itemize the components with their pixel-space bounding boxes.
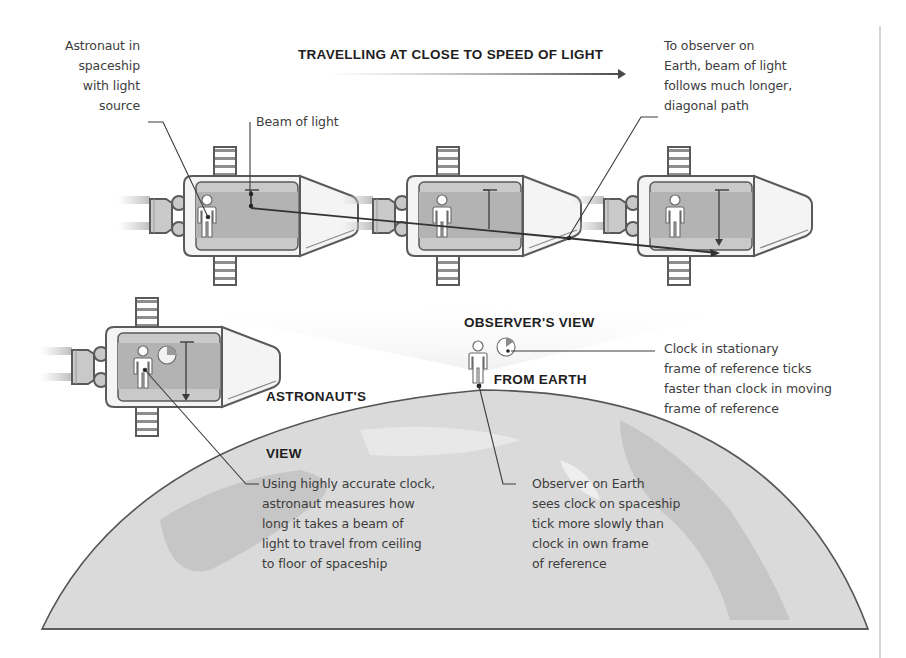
label-clock-stationary: Clock in stationary frame of reference t… <box>664 339 832 419</box>
label-observer-path: To observer on Earth, beam of light foll… <box>664 36 792 116</box>
earth-icon <box>42 390 868 629</box>
label-astronaut-in-spaceship: Astronaut in spaceship with light source <box>40 36 140 116</box>
relativity-diagram: TRAVELLING AT CLOSE TO SPEED OF LIGHT OB… <box>0 0 906 658</box>
spaceship-icon-3 <box>572 147 812 285</box>
heading-astronauts-view-line2: VIEW <box>266 444 366 463</box>
heading-observers-view-line2: FROM EARTH <box>464 370 595 389</box>
heading-astronauts-view-line1: ASTRONAUT'S <box>266 387 366 406</box>
title: TRAVELLING AT CLOSE TO SPEED OF LIGHT <box>298 45 603 64</box>
heading-observers-view: OBSERVER'S VIEW FROM EARTH <box>464 275 595 427</box>
clock-icon-ship <box>158 346 176 364</box>
spaceship-icon-2 <box>341 147 581 285</box>
label-observer-sees-clock: Observer on Earth sees clock on spaceshi… <box>532 474 680 574</box>
label-beam-of-light: Beam of light <box>256 112 339 132</box>
heading-observers-view-line1: OBSERVER'S VIEW <box>464 313 595 332</box>
page-divider <box>879 26 881 658</box>
arrow-right-icon <box>328 69 626 79</box>
spaceship-icon-1 <box>118 147 358 285</box>
label-astronaut-measures: Using highly accurate clock, astronaut m… <box>262 474 435 574</box>
